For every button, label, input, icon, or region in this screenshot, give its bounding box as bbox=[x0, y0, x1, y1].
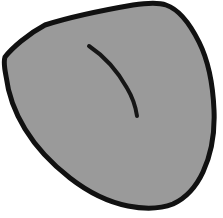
blob-figure bbox=[0, 0, 223, 218]
figure-canvas bbox=[0, 0, 223, 218]
